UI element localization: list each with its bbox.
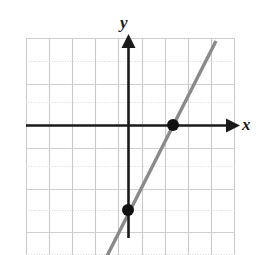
point-x-intercept	[167, 119, 179, 131]
point-y-intercept	[122, 204, 134, 216]
grid-group	[26, 38, 235, 255]
grid-background	[26, 38, 235, 255]
coordinate-plane-graphic	[0, 0, 264, 255]
y-axis-label: y	[120, 14, 128, 31]
graph-canvas: y x	[0, 0, 264, 255]
x-axis-label: x	[242, 116, 251, 133]
